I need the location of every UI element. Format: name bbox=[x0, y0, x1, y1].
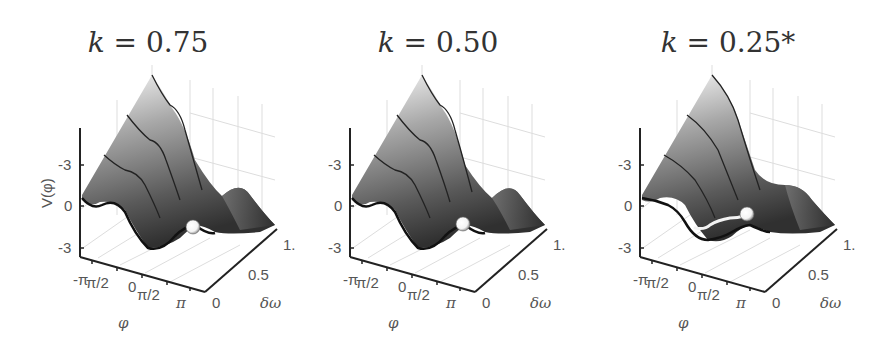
y-tick-0: 0 bbox=[482, 294, 490, 311]
x-tick-zero: 0 bbox=[688, 278, 696, 295]
x-tick-halfpi: π/2 bbox=[697, 286, 720, 303]
y-axis-label: δω bbox=[820, 294, 841, 312]
x-tick-neghalfpi: π/2 bbox=[356, 274, 379, 291]
z-tick-bot: -3 bbox=[328, 239, 341, 256]
z-tick-top: -3 bbox=[618, 156, 631, 173]
surface-plot: -3 0 -3 -π π/2 0 π/2 π φ 0 0.5 1.0 δω bbox=[560, 0, 855, 344]
x-axis-label: φ bbox=[118, 314, 129, 332]
x-tick-pi: π bbox=[175, 294, 187, 312]
z-tick-mid: 0 bbox=[64, 197, 72, 214]
z-axis-label: V(φ) bbox=[38, 178, 55, 208]
panel-k050: k = 0.50 bbox=[270, 0, 565, 344]
ball bbox=[740, 207, 754, 221]
panel-k025: k = 0.25* bbox=[560, 0, 855, 344]
y-tick-05: 0.5 bbox=[248, 266, 269, 283]
y-tick-0: 0 bbox=[772, 294, 780, 311]
x-tick-pi: π bbox=[445, 294, 457, 312]
x-axis-label: φ bbox=[388, 314, 399, 332]
x-tick-halfpi: π/2 bbox=[407, 286, 430, 303]
z-tick-bot: -3 bbox=[618, 239, 631, 256]
z-tick-mid: 0 bbox=[624, 197, 632, 214]
ball bbox=[186, 220, 200, 234]
x-tick-pi: π bbox=[735, 294, 747, 312]
y-tick-05: 0.5 bbox=[518, 266, 539, 283]
x-tick-neghalfpi: π/2 bbox=[86, 274, 109, 291]
y-tick-05: 0.5 bbox=[808, 266, 829, 283]
z-tick-bot: -3 bbox=[58, 239, 71, 256]
y-tick-0: 0 bbox=[212, 294, 220, 311]
z-tick-mid: 0 bbox=[334, 197, 342, 214]
z-tick-top: -3 bbox=[328, 156, 341, 173]
z-tick-top: -3 bbox=[58, 156, 71, 173]
surface-plot: -3 0 -3 -π π/2 0 π/2 π φ 0 0.5 1.0 δω bbox=[270, 0, 565, 344]
x-tick-zero: 0 bbox=[398, 278, 406, 295]
x-tick-zero: 0 bbox=[128, 278, 136, 295]
x-tick-halfpi: π/2 bbox=[137, 286, 160, 303]
surface-plot: -3 0 -3 V(φ) -π π/2 0 π/2 π φ 0 0.5 1.0 … bbox=[0, 0, 295, 344]
y-tick-10: 1.0 bbox=[843, 236, 855, 253]
panel-k075: k = 0.75 bbox=[0, 0, 295, 344]
ball bbox=[456, 217, 470, 231]
x-axis-label: φ bbox=[678, 314, 689, 332]
x-tick-neghalfpi: π/2 bbox=[646, 274, 669, 291]
y-axis-label: δω bbox=[530, 294, 551, 312]
